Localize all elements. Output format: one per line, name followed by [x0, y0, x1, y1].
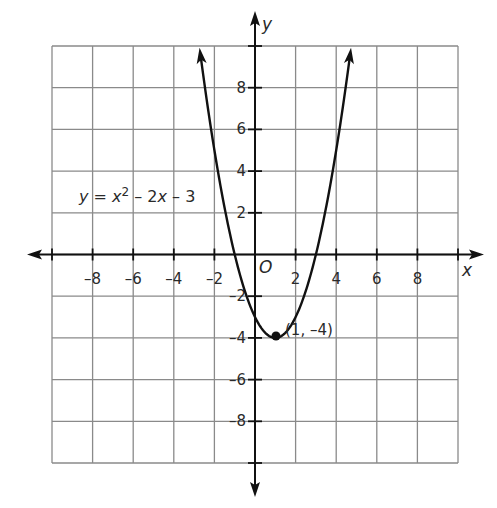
vertex-label: (1, –4): [285, 321, 333, 339]
y-tick-label: 6: [236, 120, 246, 138]
equation-label: y = x2 – 2x – 3: [78, 185, 195, 206]
y-tick-label: –4: [229, 329, 246, 347]
y-axis-label: y: [261, 14, 273, 34]
y-tick-label: –8: [229, 412, 246, 430]
x-tick-label: 6: [372, 270, 382, 288]
y-tick-label: 4: [236, 162, 246, 180]
y-tick-label: 8: [236, 79, 246, 97]
x-tick-label: 2: [291, 270, 301, 288]
parabola-path: [200, 54, 350, 338]
x-axis-label: x: [461, 260, 473, 280]
x-tick-label: –4: [165, 270, 182, 288]
x-tick-label: 4: [331, 270, 341, 288]
vertex-point: [272, 332, 281, 341]
parabola-curve: [197, 48, 354, 338]
parabola-chart: –8–6–4–224688642–2–4–6–8 x y O y = x2 – …: [0, 0, 497, 508]
x-tick-label: –6: [125, 270, 142, 288]
y-tick-label: 2: [236, 204, 246, 222]
x-tick-label: 8: [413, 270, 423, 288]
origin-label: O: [259, 257, 272, 277]
x-tick-label: –2: [206, 270, 223, 288]
x-tick-label: –8: [84, 270, 101, 288]
axes: [27, 11, 484, 497]
y-tick-label: –6: [229, 371, 246, 389]
